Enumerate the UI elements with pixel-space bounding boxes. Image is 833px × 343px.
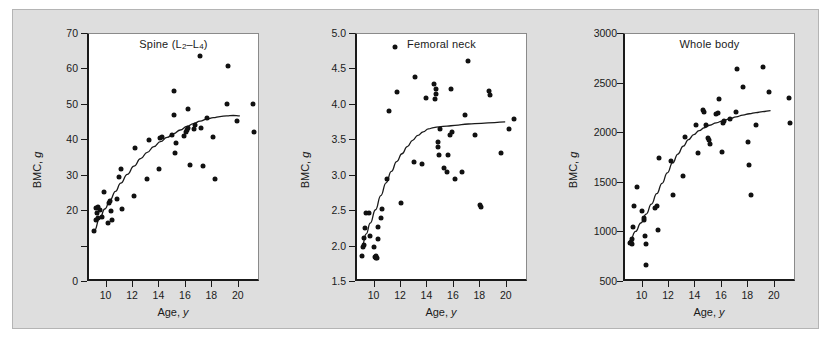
y-tick-mark [349,33,355,34]
x-tick-mark [479,281,480,287]
data-point [787,95,792,100]
data-point [448,87,453,92]
y-tick-label: 1.5 [331,275,346,287]
panel-whole-body: Whole body 50010001500200025003000 10121… [549,10,820,330]
x-tick-mark [374,281,375,287]
data-point [157,167,162,172]
data-point [423,95,428,100]
data-point [716,97,721,102]
data-point [630,236,635,241]
data-point [434,87,439,92]
data-point [173,150,178,155]
data-point [199,125,204,130]
figure-background: Spine (L2–L4) 0203040506070 101214161820… [12,9,819,329]
data-point [374,255,379,260]
data-point [366,210,371,215]
data-point [640,208,645,213]
data-point [657,155,662,160]
y-tick-mark [349,281,355,282]
x-axis-label-femoral-neck: Age, y [355,306,527,318]
data-point [171,113,176,118]
ylabel-text: BMC, [567,158,579,189]
data-point [376,225,381,230]
y-tick-label: 60 [66,62,78,74]
y-tick-mark [617,83,623,84]
plot-area-spine: Spine (L2–L4) [87,33,259,281]
data-point [631,204,636,209]
data-point [499,151,504,156]
y-tick-label: 2.0 [331,240,346,252]
x-tick-label: 20 [232,289,244,301]
data-point [707,142,712,147]
data-point [362,226,367,231]
data-point [114,197,119,202]
x-tick-label: 10 [368,289,380,301]
data-point [747,163,752,168]
data-point [719,150,724,155]
x-tick-mark [747,281,748,287]
x-axis-label-whole-body: Age, y [623,306,795,318]
data-point [431,81,436,86]
data-point [398,201,403,206]
data-point [386,109,391,114]
x-tick-label: 10 [636,289,648,301]
panel-femoral-neck: Femoral neck 1.52.02.53.03.54.04.55.0 10… [281,10,549,330]
data-point [478,204,483,209]
y-tick-mark [617,281,623,282]
data-point [118,167,123,172]
data-point [411,160,416,165]
data-point [361,243,366,248]
data-point [170,133,175,138]
y-tick-label: 1000 [594,225,617,237]
data-point [438,126,443,131]
y-tick-label: 40 [66,133,78,145]
data-point [715,111,720,116]
x-tick-mark [400,281,401,287]
x-tick-label: 20 [768,289,780,301]
data-point [629,242,634,247]
data-point [703,123,708,128]
data-point [200,163,205,168]
y-tick-label: 3000 [594,27,617,39]
y-tick-mark [81,246,87,247]
x-tick-label: 12 [126,289,138,301]
y-tick-mark [81,210,87,211]
y-tick-mark [349,210,355,211]
y-tick-label: 2000 [594,126,617,138]
y-tick-mark [81,33,87,34]
data-point [735,66,740,71]
data-point [669,158,674,163]
plot-area-whole-body: Whole body [623,33,795,281]
data-point [433,97,438,102]
y-tick-label: 0 [72,275,78,287]
x-tick-mark [642,281,643,287]
xlabel-text: Age, [425,306,451,318]
x-tick-label: 18 [474,289,486,301]
x-tick-label: 18 [206,289,218,301]
data-point [512,117,517,122]
data-point [192,123,197,128]
data-point [463,112,468,117]
y-tick-label: 2.5 [331,204,346,216]
x-tick-mark [668,281,669,287]
x-tick-mark [426,281,427,287]
data-point [378,215,383,220]
y-tick-label: 20 [66,204,78,216]
data-point [120,206,125,211]
y-tick-label: 70 [66,27,78,39]
fit-curve-spine [89,34,261,282]
x-tick-label: 20 [500,289,512,301]
data-point [145,177,150,182]
data-point [235,118,240,123]
data-point [681,174,686,179]
data-point [101,190,106,195]
x-tick-label: 14 [421,289,433,301]
data-point [187,163,192,168]
data-point [695,151,700,156]
data-point [225,64,230,69]
data-point [788,120,793,125]
ylabel-italic: g [31,152,43,158]
data-point [727,116,732,121]
xlabel-italic: y [719,306,725,318]
y-axis-label-femoral-neck: BMC, g [299,152,311,189]
